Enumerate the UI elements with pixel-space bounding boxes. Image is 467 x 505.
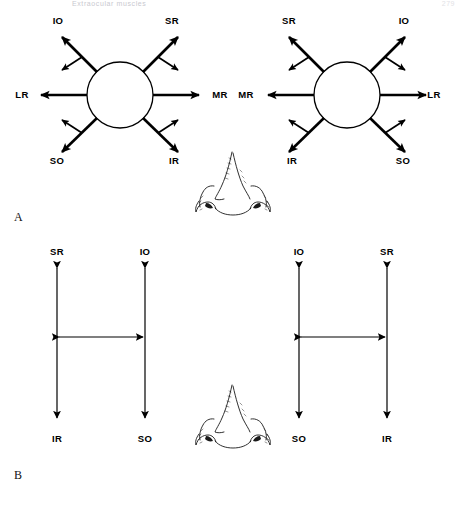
label-so: SO	[396, 155, 410, 166]
arrow-group-ir	[143, 118, 178, 152]
nose-illustration	[196, 152, 271, 215]
panel-a-left-eye: IO SR LR MR SO IR	[15, 15, 227, 166]
label-ir: IR	[382, 433, 392, 444]
arrow-so-secondary	[385, 120, 405, 133]
panel-b-left-eye: SR IO IR SO	[50, 246, 152, 444]
running-head: Extraocular muscles	[72, 0, 146, 7]
label-lr: LR	[427, 89, 440, 100]
arrow-group-io	[62, 37, 97, 72]
label-lr: LR	[15, 89, 28, 100]
figure-container: Extraocular muscles 279	[0, 0, 467, 505]
label-ir: IR	[169, 155, 179, 166]
label-io: IO	[294, 246, 305, 257]
panel-a-right-eye: SR IO MR LR IR SO	[238, 15, 440, 166]
figure-canvas: IO SR LR MR SO IR	[0, 0, 467, 505]
label-ir: IR	[287, 155, 297, 166]
label-sr: SR	[282, 15, 296, 26]
label-io: IO	[53, 15, 64, 26]
arrow-group-sr	[289, 37, 324, 72]
label-sr: SR	[50, 246, 64, 257]
label-mr: MR	[238, 89, 253, 100]
panel-letter-b: B	[14, 468, 22, 482]
panel-b-right-eye: IO SR SO IR	[292, 246, 394, 444]
nose-illustration	[196, 385, 271, 448]
label-mr: MR	[212, 89, 227, 100]
page-folio: 279	[442, 0, 455, 7]
label-so: SO	[50, 155, 64, 166]
arrow-group-so	[62, 118, 97, 152]
label-sr: SR	[165, 15, 179, 26]
arrow-sr-secondary	[158, 57, 178, 70]
label-sr: SR	[380, 246, 394, 257]
label-so: SO	[292, 433, 306, 444]
arrow-group-sr	[143, 37, 178, 72]
arrow-ir-secondary	[289, 120, 309, 133]
arrow-group-io	[370, 37, 405, 72]
label-so: SO	[138, 433, 152, 444]
arrow-so-secondary	[62, 120, 82, 133]
arrow-group-so	[370, 118, 405, 152]
arrow-sr-secondary	[289, 57, 309, 70]
panel-letter-a: A	[14, 210, 23, 224]
arrow-group-ir	[289, 118, 324, 152]
arrow-ir-secondary	[158, 120, 178, 133]
arrow-io-secondary	[385, 57, 405, 70]
label-io: IO	[140, 246, 151, 257]
arrow-io-secondary	[62, 57, 82, 70]
label-io: IO	[399, 15, 410, 26]
label-ir: IR	[52, 433, 62, 444]
